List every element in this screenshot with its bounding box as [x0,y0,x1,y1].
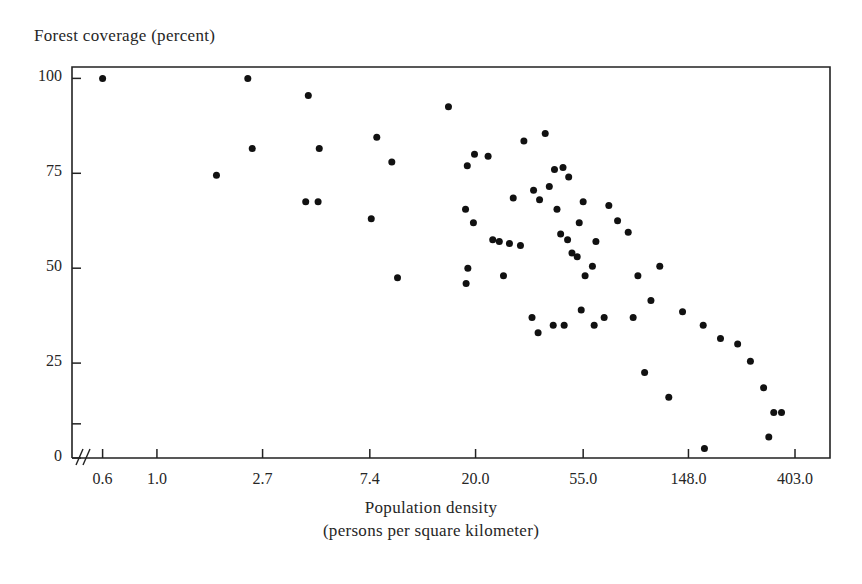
data-point [576,219,583,226]
data-point [625,229,632,236]
data-point [510,194,517,201]
data-point [641,369,648,376]
data-point [634,272,641,279]
plot-canvas [0,0,862,584]
data-point [546,183,553,190]
data-point [717,335,724,342]
data-point [565,174,572,181]
data-point [530,187,537,194]
data-point [591,322,598,329]
y-tick-label: 25 [6,352,62,370]
x-tick-label: 2.7 [223,470,303,488]
data-point [315,198,322,205]
data-point [601,314,608,321]
data-point [463,280,470,287]
data-point [778,409,785,416]
y-tick-label: 100 [6,67,62,85]
data-point [582,272,589,279]
x-tick-label: 403.0 [755,470,835,488]
y-tick-label: 75 [6,162,62,180]
data-point [551,166,558,173]
x-tick-label: 148.0 [648,470,728,488]
data-point [614,217,621,224]
data-point [520,138,527,145]
scatter-plot-figure: Forest coverage (percent) Population den… [0,0,862,584]
data-point [464,265,471,272]
data-point [578,306,585,313]
data-point [305,92,312,99]
x-tick-label: 55.0 [543,470,623,488]
data-point [700,322,707,329]
data-point [630,314,637,321]
data-point [656,263,663,270]
data-point [589,263,596,270]
data-point [747,358,754,365]
data-point [536,196,543,203]
data-point [388,158,395,165]
data-point [470,219,477,226]
data-point [496,238,503,245]
data-point [368,215,375,222]
tick-marks [72,78,795,458]
data-point [485,153,492,160]
data-points [99,75,785,452]
data-point [500,272,507,279]
data-point [394,274,401,281]
plot-frame [72,67,830,458]
data-point [734,341,741,348]
y-tick-label: 50 [6,257,62,275]
data-point [665,394,672,401]
data-point [542,130,549,137]
data-point [464,162,471,169]
x-tick-label: 1.0 [117,470,197,488]
data-point [550,322,557,329]
x-tick-label: 7.4 [330,470,410,488]
data-point [489,236,496,243]
data-point [760,384,767,391]
data-point [560,164,567,171]
data-point [373,134,380,141]
data-point [561,322,568,329]
data-point [213,172,220,179]
data-point [647,297,654,304]
data-point [679,308,686,315]
data-point [445,103,452,110]
data-point [529,314,536,321]
data-point [592,238,599,245]
data-point [471,151,478,158]
data-point [244,75,251,82]
data-point [770,409,777,416]
data-point [765,434,772,441]
data-point [557,231,564,238]
data-point [574,253,581,260]
data-point [517,242,524,249]
data-point [535,329,542,336]
data-point [701,445,708,452]
data-point [462,206,469,213]
data-point [99,75,106,82]
data-point [605,202,612,209]
data-point [316,145,323,152]
data-point [302,198,309,205]
data-point [249,145,256,152]
data-point [580,198,587,205]
axis-break-icon [76,449,90,465]
data-point [553,206,560,213]
x-tick-label: 20.0 [436,470,516,488]
y-tick-label: 0 [6,447,62,465]
data-point [564,236,571,243]
data-point [506,240,513,247]
